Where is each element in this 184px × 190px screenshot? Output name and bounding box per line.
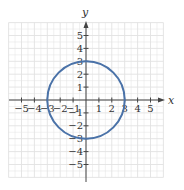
x-axis-arrow-icon: [158, 98, 165, 103]
x-axis-label: x: [168, 94, 175, 107]
y-tick-label: 2: [77, 69, 83, 80]
y-tick-label: 1: [77, 82, 83, 93]
y-tick-label: −2: [68, 120, 83, 131]
y-tick-label: −5: [68, 159, 83, 170]
y-axis-label: y: [81, 6, 89, 19]
y-tick-label: −1: [68, 107, 83, 118]
y-tick-label: −4: [68, 146, 83, 157]
x-tick-label: 2: [109, 103, 115, 114]
x-tick-label: 4: [134, 103, 140, 114]
coordinate-plane: x y −5−4−3−2−11234554321−1−2−3−4−5: [0, 0, 184, 190]
y-tick-label: 4: [77, 43, 83, 54]
x-tick-label: 5: [147, 103, 153, 114]
y-tick-label: 5: [77, 30, 83, 41]
y-axis-arrow-icon: [84, 21, 89, 28]
x-tick-label: 1: [96, 103, 102, 114]
